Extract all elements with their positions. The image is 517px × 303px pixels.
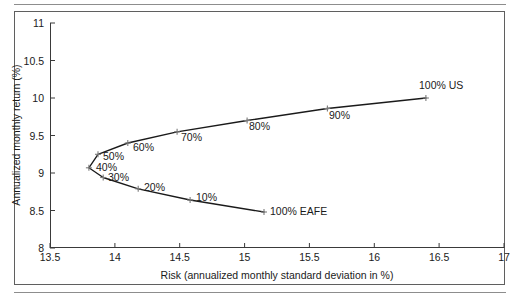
annotation-100-eafe: 100% EAFE (270, 206, 327, 217)
x-tick-15: 15 (239, 252, 251, 263)
x-tick-13-5: 13.5 (40, 252, 60, 263)
annotation-70: 70% (181, 132, 202, 143)
x-tick-marks (50, 243, 504, 248)
annotation-60: 60% (133, 142, 154, 153)
annotation-40: 40% (96, 162, 117, 173)
annotation-10: 10% (196, 192, 217, 203)
y-tick-9: 9 (38, 168, 44, 179)
bottom-rule (14, 292, 506, 293)
y-tick-11: 11 (33, 18, 44, 29)
annotation-20: 20% (144, 182, 165, 193)
x-tick-16: 16 (368, 252, 380, 263)
y-tick-8-5: 8.5 (29, 205, 44, 216)
x-tick-14-5: 14.5 (169, 252, 189, 263)
frontier-curve (89, 98, 426, 212)
y-axis-title: Annualized monthly return (%) (10, 35, 22, 235)
annotation-30: 30% (108, 172, 129, 183)
annotation-80: 80% (249, 121, 270, 132)
y-tick-9-5: 9.5 (29, 130, 44, 141)
x-axis-title: Risk (annualized monthly standard deviat… (50, 269, 504, 281)
x-tick-15-5: 15.5 (299, 252, 319, 263)
y-tick-10-5: 10.5 (24, 55, 44, 66)
y-tick-10: 10 (32, 93, 44, 104)
annotation-90: 90% (329, 110, 350, 121)
x-tick-14: 14 (109, 252, 121, 263)
efficient-frontier-figure: 8 8.5 9 9.5 10 10.5 11 13.5 14 14.5 15 1… (0, 0, 517, 303)
x-tick-17: 17 (498, 252, 510, 263)
annotation-100-us: 100% US (419, 80, 463, 91)
annotation-50: 50% (103, 151, 124, 162)
data-point-markers (86, 95, 429, 215)
y-axis-tick-labels: 8 8.5 9 9.5 10 10.5 11 (0, 0, 44, 303)
x-tick-16-5: 16.5 (429, 252, 449, 263)
y-tick-marks (50, 23, 55, 248)
